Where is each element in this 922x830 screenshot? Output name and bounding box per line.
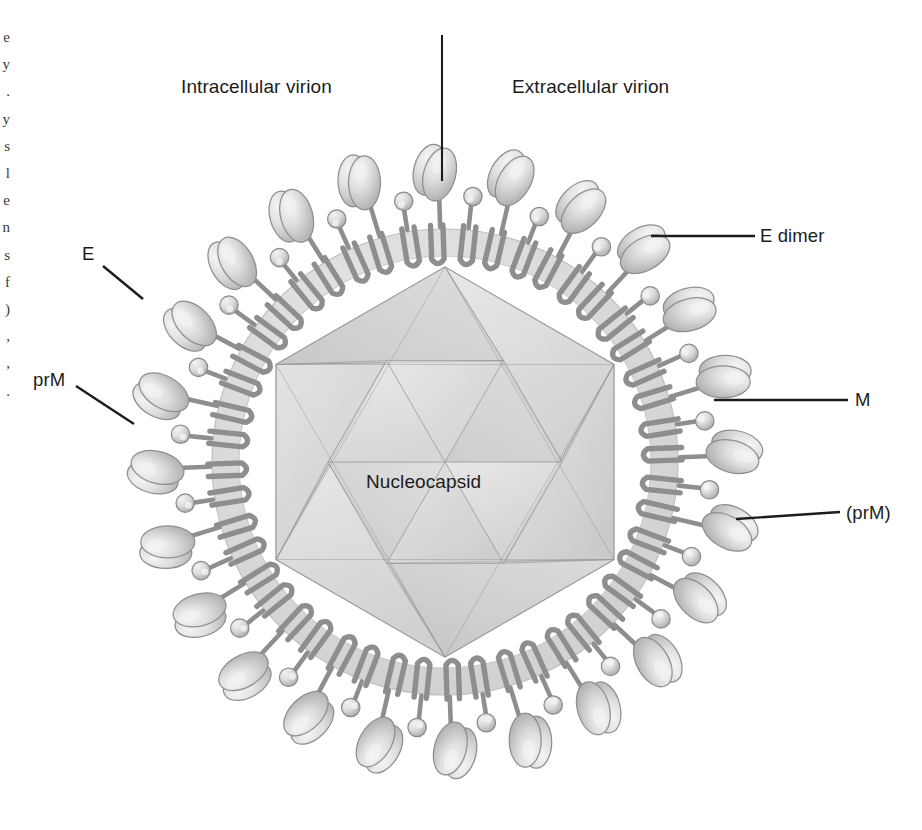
- m-protein-head: [477, 714, 495, 732]
- m-protein-highlight: [686, 550, 693, 557]
- e-protein-dimer: [407, 141, 462, 205]
- e-protein-dimer: [338, 155, 381, 210]
- m-protein-head: [696, 412, 714, 430]
- spike-stem: [636, 599, 657, 614]
- m-protein-highlight: [289, 673, 296, 680]
- callout-label-prm-right: (prM): [846, 502, 891, 524]
- header-extracellular-virion: Extracellular virion: [512, 76, 669, 98]
- callout-label-e-left: E: [82, 243, 94, 265]
- e-protein-dimer: [696, 355, 751, 398]
- virion-diagram: [0, 0, 922, 830]
- m-protein-highlight: [185, 502, 192, 509]
- m-protein-highlight: [551, 698, 558, 705]
- e-protein-highlight: [723, 372, 745, 385]
- m-protein-highlight: [240, 625, 247, 632]
- spike-stem: [659, 355, 683, 366]
- e-protein-dimer: [140, 526, 195, 569]
- leader-line-prm-left: [76, 386, 134, 424]
- m-protein-head: [395, 192, 413, 210]
- e-protein-dimer: [200, 230, 264, 299]
- m-protein-highlight: [532, 215, 539, 222]
- header-intracellular-virion: Intracellular virion: [181, 76, 332, 98]
- callout-label-m: M: [855, 389, 871, 411]
- m-protein-highlight: [698, 415, 705, 422]
- leader-line-e-left: [103, 266, 143, 299]
- spike-stem: [541, 676, 551, 699]
- m-protein-highlight: [703, 484, 710, 491]
- spike-stem: [293, 653, 308, 673]
- m-protein-highlight: [197, 368, 204, 375]
- m-protein-head: [189, 358, 207, 376]
- callout-label-prm-left: prM: [33, 369, 65, 391]
- m-protein-highlight: [227, 306, 234, 313]
- e-protein-dimer: [608, 217, 677, 281]
- m-protein-head: [464, 187, 482, 205]
- m-protein-head: [176, 494, 194, 512]
- m-protein-highlight: [180, 434, 187, 441]
- e-protein-dimer: [478, 143, 542, 212]
- callout-label-e-dimer: E dimer: [760, 225, 824, 247]
- m-protein-highlight: [276, 258, 283, 265]
- e-protein-dimer: [156, 292, 225, 361]
- m-protein-head: [700, 481, 718, 499]
- e-protein-dimer: [546, 173, 615, 242]
- spike-stem: [338, 225, 348, 248]
- m-protein-highlight: [417, 721, 424, 728]
- e-protein-dimer: [126, 364, 195, 428]
- m-protein-highlight: [682, 349, 689, 356]
- e-protein-dimer: [665, 563, 734, 632]
- m-protein-highlight: [467, 196, 474, 203]
- e-protein-dimer: [275, 683, 344, 752]
- e-protein-dimer: [509, 713, 552, 768]
- m-protein-head: [408, 718, 426, 736]
- m-protein-highlight: [607, 659, 614, 666]
- e-protein-dimer: [625, 625, 689, 694]
- m-protein-highlight: [643, 292, 650, 299]
- e-protein-dimer: [696, 495, 765, 559]
- m-protein-highlight: [398, 201, 405, 208]
- m-protein-highlight: [657, 612, 664, 619]
- e-protein-dimer: [211, 644, 280, 708]
- e-protein-dimer: [348, 711, 412, 780]
- m-protein-highlight: [485, 716, 492, 723]
- spike-stem: [233, 309, 254, 324]
- m-protein-highlight: [351, 702, 358, 709]
- m-protein-head: [171, 425, 189, 443]
- e-protein-dimer: [702, 424, 766, 479]
- m-protein-highlight: [332, 219, 339, 226]
- figure-panel: ey.yslensf),,.: [0, 0, 922, 830]
- e-protein-highlight: [146, 539, 168, 552]
- m-protein-highlight: [594, 244, 601, 251]
- leader-line-prm-right: [736, 512, 840, 519]
- m-protein-highlight: [202, 568, 209, 575]
- e-protein-dimer: [124, 445, 188, 500]
- spike-stem: [582, 251, 597, 271]
- m-protein-head: [682, 547, 700, 565]
- e-protein-dimer: [428, 718, 483, 782]
- spike-stem: [207, 558, 231, 569]
- e-protein-highlight: [522, 740, 535, 762]
- spike-stem: [419, 696, 422, 722]
- e-protein-highlight: [355, 161, 368, 183]
- spike-stem: [469, 202, 472, 228]
- label-nucleocapsid: Nucleocapsid: [366, 471, 481, 493]
